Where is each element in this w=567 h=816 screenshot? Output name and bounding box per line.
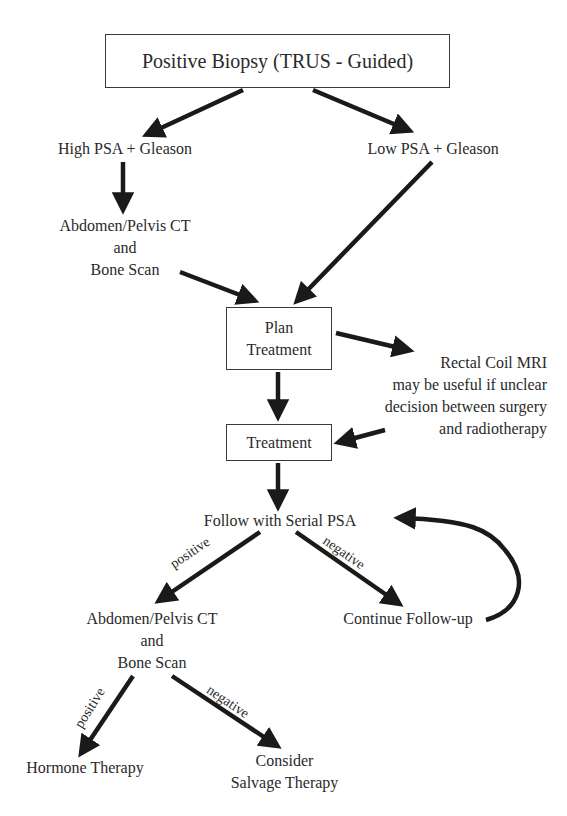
arrow-biopsy-to-low xyxy=(313,90,408,130)
node-ct-bone-scan-2: Abdomen/Pelvis CT and Bone Scan xyxy=(72,608,232,674)
arrow-psa-to-continue xyxy=(296,532,398,603)
node-high-psa: High PSA + Gleason xyxy=(45,138,205,160)
node-treatment: Treatment xyxy=(226,424,332,461)
node-salvage-therapy: Consider Salvage Therapy xyxy=(212,750,357,794)
node-serial-psa: Follow with Serial PSA xyxy=(180,510,380,532)
node-continue-followup: Continue Follow-up xyxy=(328,608,488,630)
node-hormone-therapy: Hormone Therapy xyxy=(10,757,160,779)
arrow-low-to-plan xyxy=(298,162,432,300)
node-ct-bone-scan-1: Abdomen/Pelvis CT and Bone Scan xyxy=(45,215,205,281)
node-positive-biopsy: Positive Biopsy (TRUS - Guided) xyxy=(105,34,450,88)
node-mri-note: Rectal Coil MRI may be useful if unclear… xyxy=(340,352,547,440)
flowchart: Positive Biopsy (TRUS - Guided) High PSA… xyxy=(0,0,567,816)
node-low-psa: Low PSA + Gleason xyxy=(348,138,518,160)
arrow-continue-loop xyxy=(400,518,519,620)
node-plan-treatment: Plan Treatment xyxy=(226,307,332,370)
arrow-ct2-to-salvage xyxy=(172,676,276,745)
arrow-plan-to-mri xyxy=(336,333,408,350)
arrow-biopsy-to-high xyxy=(148,90,243,134)
